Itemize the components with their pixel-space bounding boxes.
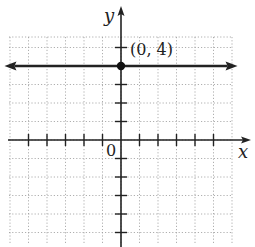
y-axis-label: y bbox=[103, 5, 115, 26]
origin-label: 0 bbox=[106, 141, 116, 160]
coordinate-graph: y x 0 (0, 4) bbox=[0, 0, 255, 247]
point-label: (0, 4) bbox=[130, 40, 173, 59]
point-marker bbox=[117, 62, 125, 70]
x-axis-label: x bbox=[238, 141, 248, 162]
plotted-points bbox=[117, 62, 125, 70]
